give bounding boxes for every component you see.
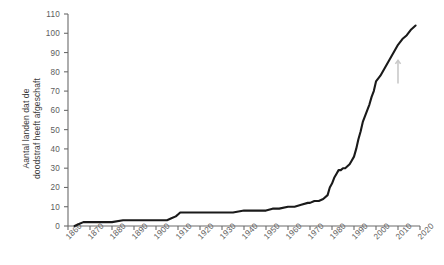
- chart-annotations: [395, 60, 400, 83]
- chart-plot: [0, 0, 444, 265]
- x-axis-ticks: [68, 226, 420, 230]
- y-axis-ticks: [64, 14, 68, 226]
- data-series-line: [75, 26, 416, 226]
- axis-lines: [68, 14, 420, 226]
- chart-container: Aantal landen dat de doodstraf heeft afg…: [0, 0, 444, 265]
